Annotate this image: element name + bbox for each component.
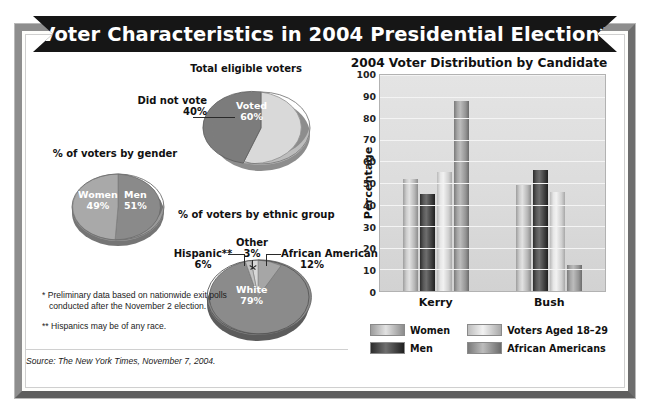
title-ribbon: Voter Characteristics in 2004 Presidenti… bbox=[33, 16, 617, 52]
legend-label-african-americans: African Americans bbox=[507, 343, 606, 354]
gridline-30 bbox=[380, 226, 605, 227]
chart-title: 2004 Voter Distribution by Candidate bbox=[348, 56, 610, 70]
bar-bush-women bbox=[516, 185, 531, 291]
page-title: Voter Characteristics in 2004 Presidenti… bbox=[40, 23, 610, 46]
turnout-pie-chart bbox=[202, 82, 320, 174]
gender-slice-men: Men51% bbox=[124, 190, 147, 212]
ethnic-slice-african-american: African American12% bbox=[281, 248, 343, 270]
y-tick-40: 40 bbox=[363, 199, 376, 210]
gridline-10 bbox=[380, 269, 605, 270]
gridline-20 bbox=[380, 248, 605, 249]
legend-item-men: Men bbox=[370, 342, 461, 354]
bar-kerry-women bbox=[403, 179, 418, 291]
bar-kerry-men bbox=[420, 194, 435, 291]
legend-item-african-americans: African Americans bbox=[467, 342, 608, 354]
y-tick-70: 70 bbox=[363, 134, 376, 145]
x-tick-kerry: Kerry bbox=[419, 296, 453, 309]
y-tick-60: 60 bbox=[363, 156, 376, 167]
y-tick-50: 50 bbox=[363, 178, 376, 189]
gender-slice-women: Women49% bbox=[78, 190, 118, 212]
legend-swatch-voters-aged-18-29 bbox=[467, 324, 502, 336]
x-tick-bush: Bush bbox=[534, 296, 565, 309]
y-axis-ticks: 1009080706050403020100 bbox=[354, 74, 376, 292]
legend-swatch-men bbox=[370, 342, 405, 354]
ethnic-pie-heading: % of voters by ethnic group bbox=[178, 209, 330, 220]
y-tick-100: 100 bbox=[356, 69, 376, 80]
gender-pie-heading: % of voters by gender bbox=[40, 148, 190, 159]
gridline-40 bbox=[380, 205, 605, 206]
y-tick-30: 30 bbox=[363, 221, 376, 232]
source-divider bbox=[26, 349, 348, 350]
gridline-50 bbox=[380, 183, 605, 184]
bar-bush-men bbox=[533, 170, 548, 291]
african-american-leader-line bbox=[266, 254, 281, 255]
y-tick-20: 20 bbox=[363, 243, 376, 254]
turnout-slice-did-not-vote: Did not vote 40% bbox=[117, 95, 207, 117]
turnout-slice-voted: Voted60% bbox=[236, 101, 267, 123]
hispanic-leader-line bbox=[228, 254, 245, 255]
x-axis-labels: KerryBush bbox=[379, 292, 606, 310]
gridline-70 bbox=[380, 140, 605, 141]
source-citation: Source: The New York Times, November 7, … bbox=[26, 356, 215, 366]
plot-area bbox=[379, 74, 606, 292]
chart-legend: Women Voters Aged 18–29 Men African Amer… bbox=[370, 324, 608, 354]
legend-item-voters-aged-18-29: Voters Aged 18–29 bbox=[467, 324, 608, 336]
legend-swatch-african-americans bbox=[467, 342, 502, 354]
legend-label-women: Women bbox=[410, 325, 450, 336]
bar-bush-young bbox=[550, 192, 565, 291]
footnotes: * Preliminary data based on nationwide e… bbox=[42, 290, 247, 340]
african-american-leader-drop bbox=[266, 254, 267, 266]
hispanic-leader-drop bbox=[244, 254, 245, 266]
footnote-preliminary-data: * Preliminary data based on nationwide e… bbox=[42, 290, 247, 313]
legend-swatch-women bbox=[370, 324, 405, 336]
gridline-80 bbox=[380, 118, 605, 119]
turnout-leader-line bbox=[193, 117, 235, 118]
turnout-pie-heading: Total eligible voters bbox=[176, 63, 316, 74]
y-tick-80: 80 bbox=[363, 112, 376, 123]
y-tick-90: 90 bbox=[363, 90, 376, 101]
y-tick-0: 0 bbox=[369, 287, 376, 298]
footnote-hispanics: ** Hispanics may be of any race. bbox=[42, 321, 247, 332]
plot-area-wrapper: Percentage 1009080706050403020100 bbox=[348, 74, 610, 292]
bar-chart-panel: 2004 Voter Distribution by Candidate Per… bbox=[348, 56, 610, 368]
y-tick-10: 10 bbox=[363, 265, 376, 276]
legend-label-men: Men bbox=[410, 343, 433, 354]
gridline-90 bbox=[380, 97, 605, 98]
gridline-100 bbox=[380, 75, 605, 76]
bar-kerry-afam bbox=[454, 101, 469, 291]
legend-label-voters-aged-18-29: Voters Aged 18–29 bbox=[507, 325, 608, 336]
bar-kerry-young bbox=[437, 172, 452, 291]
gridline-60 bbox=[380, 161, 605, 162]
legend-item-women: Women bbox=[370, 324, 461, 336]
ethnic-slice-hispanic: Hispanic**6% bbox=[172, 248, 234, 270]
